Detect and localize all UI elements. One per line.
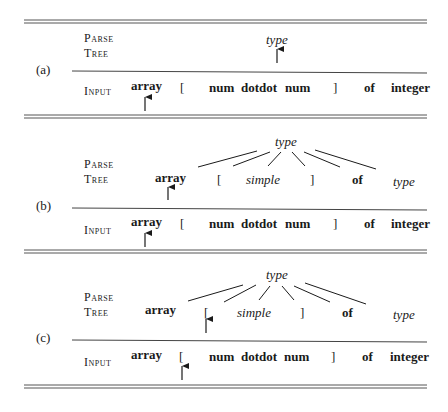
- input-token: integer: [391, 80, 430, 96]
- input-token: dotdot: [241, 80, 277, 96]
- input-token: num: [285, 80, 310, 96]
- input-token: ]: [333, 80, 337, 96]
- input-token: [: [180, 216, 184, 232]
- input-token: array: [131, 78, 162, 94]
- input-token: num: [284, 349, 309, 365]
- tree-child: simple: [246, 172, 280, 188]
- panel-label: (a): [36, 62, 50, 78]
- input-token: integer: [391, 216, 430, 232]
- tree-root: type: [266, 32, 288, 48]
- row-label-parse: Parse: [84, 31, 114, 46]
- lookahead-arrows: [145, 49, 277, 380]
- single-separators: [72, 71, 427, 342]
- row-label-input: Input: [84, 223, 111, 238]
- panel-label: (c): [36, 330, 50, 346]
- tree-child: [: [217, 172, 221, 188]
- input-token: ]: [331, 349, 335, 365]
- input-token: [: [180, 80, 184, 96]
- tree-child: of: [342, 305, 353, 321]
- row-label-input: Input: [84, 355, 111, 370]
- tree-child: of: [352, 172, 363, 188]
- input-token: dotdot: [241, 216, 277, 232]
- row-label-parse: Parse: [84, 290, 114, 305]
- input-token: of: [362, 349, 373, 365]
- double-rules: [24, 20, 427, 388]
- tree-edges-c: [188, 283, 366, 304]
- input-token: of: [364, 80, 375, 96]
- row-label-tree: Tree: [84, 172, 108, 187]
- tree-child: type: [393, 174, 415, 190]
- tree-child: array: [155, 170, 186, 186]
- tree-root: type: [266, 267, 288, 283]
- row-label-input: Input: [84, 84, 111, 99]
- tree-child: array: [145, 302, 176, 318]
- input-token: dotdot: [241, 349, 277, 365]
- input-token: [: [179, 349, 183, 365]
- tree-child: type: [393, 307, 415, 323]
- input-token: ]: [333, 216, 337, 232]
- tree-child: [: [204, 305, 208, 321]
- tree-child: simple: [237, 305, 271, 321]
- input-token: num: [285, 216, 310, 232]
- input-token: array: [131, 214, 162, 230]
- input-token: of: [364, 216, 375, 232]
- tree-child: ]: [310, 172, 314, 188]
- row-label-tree: Tree: [84, 305, 108, 320]
- tree-edges-b: [198, 150, 376, 169]
- tree-child: ]: [300, 305, 304, 321]
- row-label-tree: Tree: [84, 46, 108, 61]
- input-token: num: [209, 80, 234, 96]
- input-token: integer: [390, 349, 429, 365]
- input-token: array: [131, 347, 162, 363]
- row-label-parse: Parse: [84, 157, 114, 172]
- panel-label: (b): [36, 198, 51, 214]
- tree-root: type: [275, 134, 297, 150]
- input-token: num: [209, 349, 234, 365]
- input-token: num: [209, 216, 234, 232]
